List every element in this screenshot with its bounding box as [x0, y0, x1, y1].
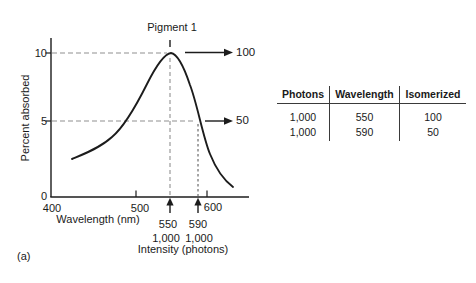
x-tick-label-600: 600	[204, 202, 222, 213]
absorption-curve	[72, 53, 233, 187]
table-cell-isomerized: 100	[399, 104, 466, 125]
table-row: 1,000 550 100	[277, 104, 466, 125]
y-axis-label: Percent absorbed	[20, 75, 31, 162]
arrow-550-head	[166, 198, 173, 206]
arrow-590-head	[194, 198, 201, 206]
results-table: Photons Wavelength Isomerized 1,000 550 …	[277, 86, 466, 141]
y-tick-label-5: 5	[41, 116, 47, 127]
wavelength-550-label: 550	[159, 219, 177, 230]
isomerized-100-label: 100	[236, 47, 255, 59]
table-cell-photons: 1,000	[277, 125, 329, 141]
table-row: 1,000 590 50	[277, 125, 466, 141]
table-header-wavelength: Wavelength	[329, 86, 399, 103]
table-cell-isomerized: 50	[399, 125, 466, 141]
table-cell-wavelength: 550	[329, 104, 399, 125]
table-cell-wavelength: 590	[329, 125, 399, 141]
arrow-100-head	[224, 49, 233, 56]
table-cell-photons: 1,000	[277, 104, 329, 125]
table-header-row: Photons Wavelength Isomerized	[277, 86, 466, 104]
y-tick-label-0: 0	[41, 191, 47, 202]
intensity-caption: Intensity (photons)	[138, 244, 229, 255]
wavelength-590-label: 590	[189, 219, 207, 230]
y-tick-label-10: 10	[35, 48, 47, 59]
figure-panel: Pigment 1 Percent absorbed 10 5 0 400 50…	[0, 0, 476, 283]
chart-canvas	[0, 0, 476, 283]
arrow-50-head	[224, 117, 233, 124]
table-header-isomerized: Isomerized	[399, 86, 466, 103]
chart-title: Pigment 1	[147, 22, 197, 33]
isomerized-50-label: 50	[236, 115, 249, 127]
x-axis-label: Wavelength (nm)	[56, 214, 139, 225]
panel-label: (a)	[17, 251, 30, 262]
table-header-photons: Photons	[277, 86, 329, 103]
